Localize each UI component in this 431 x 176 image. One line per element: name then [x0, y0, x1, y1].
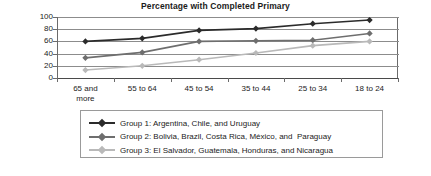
data-point-marker — [139, 49, 145, 55]
data-point-marker — [196, 57, 202, 63]
series-line — [85, 41, 369, 70]
y-axis-tick-label: 60 — [0, 37, 53, 45]
data-point-marker — [366, 38, 372, 44]
data-series-layer — [57, 17, 398, 78]
legend-marker-icon — [89, 118, 115, 128]
x-axis-tick-label: 25 to 34 — [284, 84, 341, 94]
y-axis-labels: 020406080100 — [0, 17, 53, 78]
legend-diamond-icon — [98, 132, 106, 140]
data-point-marker — [196, 27, 202, 33]
legend-item[interactable]: Group 1: Argentina, Chile, and Uruguay — [89, 116, 260, 130]
legend-diamond-icon — [98, 119, 106, 127]
y-axis-tick-label: 80 — [0, 25, 53, 33]
x-axis-tick-label: 18 to 24 — [341, 84, 398, 94]
data-point-marker — [310, 21, 316, 27]
chart-legend: Group 1: Argentina, Chile, and UruguayGr… — [80, 110, 383, 158]
chart-title: Percentage with Completed Primary — [0, 1, 431, 11]
data-point-marker — [82, 38, 88, 44]
data-point-marker — [82, 67, 88, 73]
legend-item[interactable]: Group 2: Bolivia, Brazil, Costa Rica, Mé… — [89, 130, 331, 144]
x-axis-tick — [57, 78, 58, 82]
y-axis-tick-label: 100 — [0, 13, 53, 21]
x-axis-tick — [284, 78, 285, 82]
x-axis-tick — [228, 78, 229, 82]
series-line — [85, 33, 369, 57]
data-point-marker — [253, 25, 259, 31]
x-axis-tick — [341, 78, 342, 82]
legend-item[interactable]: Group 3: El Salvador, Guatemala, Hondura… — [89, 143, 333, 157]
legend-diamond-icon — [98, 146, 106, 154]
x-axis-tick — [114, 78, 115, 82]
data-point-marker — [310, 43, 316, 49]
data-point-marker — [139, 63, 145, 69]
chart-container: Percentage with Completed Primary 020406… — [0, 0, 431, 176]
data-point-marker — [310, 37, 316, 43]
x-axis-tick-label: 35 to 44 — [228, 84, 285, 94]
x-axis-tick-label: 65 and more — [57, 84, 114, 103]
data-point-marker — [196, 38, 202, 44]
data-point-marker — [366, 30, 372, 36]
x-axis-tick — [398, 78, 399, 82]
x-axis-tick — [171, 78, 172, 82]
legend-marker-icon — [89, 145, 115, 155]
y-axis-tick-label: 0 — [0, 74, 53, 82]
x-axis-tick-label: 55 to 64 — [114, 84, 171, 94]
y-axis-tick-label: 40 — [0, 50, 53, 58]
data-point-marker — [82, 55, 88, 61]
legend-label: Group 2: Bolivia, Brazil, Costa Rica, Mé… — [120, 132, 331, 141]
legend-label: Group 3: El Salvador, Guatemala, Hondura… — [120, 146, 333, 155]
y-axis-tick-label: 20 — [0, 62, 53, 70]
legend-label: Group 1: Argentina, Chile, and Uruguay — [120, 119, 260, 128]
x-axis-tick-label: 45 to 54 — [171, 84, 228, 94]
data-point-marker — [253, 38, 259, 44]
data-point-marker — [366, 17, 372, 23]
legend-marker-icon — [89, 132, 115, 142]
data-point-marker — [139, 35, 145, 41]
data-point-marker — [253, 50, 259, 56]
